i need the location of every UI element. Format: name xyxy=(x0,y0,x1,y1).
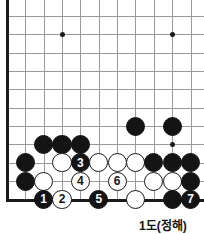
stone-white-c9r9 xyxy=(163,172,182,191)
move-number: 5 xyxy=(90,191,107,208)
stone-black-c2r7 xyxy=(34,135,53,154)
grid-line-horizontal xyxy=(7,71,204,72)
stone-white-c2r9 xyxy=(34,172,53,191)
grid-line-horizontal xyxy=(7,53,204,54)
star-point-lower-right xyxy=(170,142,175,147)
move-number: 2 xyxy=(53,191,70,208)
stone-black-c7r6 xyxy=(126,117,145,136)
stone-white-move-2: 2 xyxy=(52,190,71,209)
stone-white-c6r8 xyxy=(108,153,127,172)
stone-black-c1r8 xyxy=(16,153,35,172)
grid-line-horizontal xyxy=(7,16,204,17)
stone-black-c9r10 xyxy=(163,190,182,209)
stone-black-move-3: 3 xyxy=(71,153,90,172)
diagram-caption: 1도(정해) xyxy=(139,216,187,233)
stone-white-move-4: 4 xyxy=(71,172,90,191)
stone-black-c1r9 xyxy=(16,172,35,191)
stone-white-c3r8 xyxy=(52,153,71,172)
grid-line-vertical xyxy=(44,0,45,200)
star-point-upper-left xyxy=(60,32,65,37)
stone-black-move-1: 1 xyxy=(34,190,53,209)
stone-black-c9r8 xyxy=(163,153,182,172)
move-number: 3 xyxy=(72,154,89,171)
stone-black-c10r8 xyxy=(181,153,200,172)
go-diagram: 3461257 1도(정해) xyxy=(0,0,204,234)
board-edge-left xyxy=(6,0,9,202)
stone-white-c7r8 xyxy=(126,153,145,172)
stone-white-c5r8 xyxy=(89,153,108,172)
stone-black-move-5: 5 xyxy=(89,190,108,209)
stone-white-move-6: 6 xyxy=(108,172,127,191)
move-number: 4 xyxy=(72,173,89,190)
stone-black-c3r7 xyxy=(52,135,71,154)
move-number: 6 xyxy=(109,173,126,190)
move-number: 7 xyxy=(182,191,199,208)
grid-line-horizontal xyxy=(7,108,204,109)
stone-black-c4r7 xyxy=(71,135,90,154)
stone-black-c9r6 xyxy=(163,117,182,136)
star-point-upper-right xyxy=(170,32,175,37)
stone-black-c8r8 xyxy=(144,153,163,172)
grid-line-horizontal xyxy=(7,89,204,90)
stone-black-c10r9 xyxy=(181,172,200,191)
stone-black-move-7: 7 xyxy=(181,190,200,209)
move-number: 1 xyxy=(35,191,52,208)
stone-white-c7r10 xyxy=(126,190,145,209)
stone-white-c8r9 xyxy=(144,172,163,191)
